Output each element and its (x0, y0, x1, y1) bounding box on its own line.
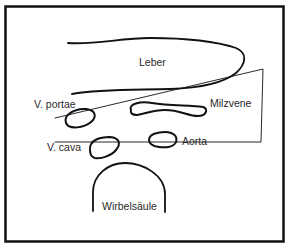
vena-cava-shape (90, 137, 119, 158)
label-wirbelsaeule: Wirbelsäule (102, 200, 157, 212)
label-leber: Leber (139, 56, 166, 68)
label-v-cava: V. cava (47, 141, 81, 153)
label-milzvene: Milzvene (210, 97, 252, 109)
anatomy-diagram: Leber V. portae Milzvene V. cava Aorta W… (0, 0, 286, 244)
label-v-portae: V. portae (34, 98, 76, 110)
splenic-vein-shape (131, 102, 207, 116)
aorta-shape (149, 132, 176, 147)
label-aorta: Aorta (182, 135, 207, 147)
